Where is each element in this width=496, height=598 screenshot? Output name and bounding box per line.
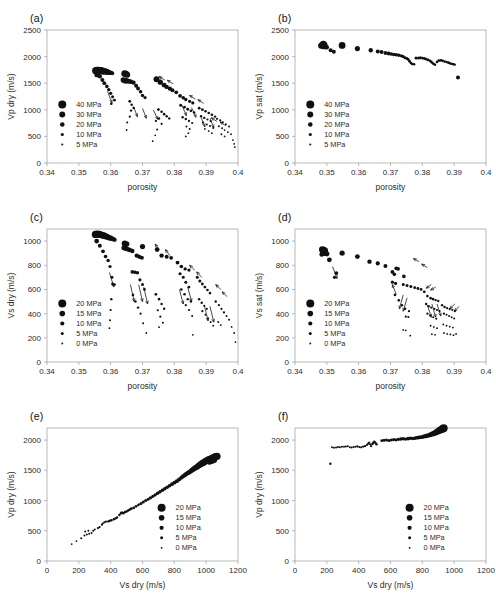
svg-text:0: 0 xyxy=(37,557,42,566)
panel-a: (a) 0.340.350.360.370.380.390.4050010001… xyxy=(0,0,248,199)
svg-text:1500: 1500 xyxy=(23,79,41,88)
svg-text:1000: 1000 xyxy=(23,106,41,115)
svg-text:0: 0 xyxy=(285,358,290,367)
svg-text:0.36: 0.36 xyxy=(351,168,367,177)
svg-text:0.35: 0.35 xyxy=(319,168,335,177)
svg-text:0: 0 xyxy=(293,566,298,575)
svg-text:0.39: 0.39 xyxy=(446,367,462,376)
svg-text:porosity: porosity xyxy=(376,182,407,192)
svg-text:10 MPa: 10 MPa xyxy=(424,523,450,532)
svg-text:5 MPa: 5 MPa xyxy=(76,329,98,338)
svg-text:Vs dry (m/s): Vs dry (m/s) xyxy=(120,580,166,590)
svg-text:0.36: 0.36 xyxy=(103,367,119,376)
svg-text:porosity: porosity xyxy=(128,182,159,192)
svg-text:Vp dry (m/s): Vp dry (m/s) xyxy=(6,471,16,517)
svg-text:2000: 2000 xyxy=(271,53,289,62)
svg-text:0.37: 0.37 xyxy=(135,367,151,376)
svg-text:0.37: 0.37 xyxy=(383,367,399,376)
svg-text:600: 600 xyxy=(384,566,398,575)
svg-text:0.37: 0.37 xyxy=(135,168,151,177)
svg-text:400: 400 xyxy=(104,566,118,575)
svg-text:1200: 1200 xyxy=(477,566,495,575)
svg-text:0.39: 0.39 xyxy=(446,168,462,177)
svg-text:20 MPa: 20 MPa xyxy=(424,503,450,512)
svg-text:5 MPa: 5 MPa xyxy=(324,329,346,338)
svg-text:0.35: 0.35 xyxy=(71,168,87,177)
svg-text:0.4: 0.4 xyxy=(480,168,492,177)
svg-text:0.34: 0.34 xyxy=(287,367,303,376)
svg-text:0.38: 0.38 xyxy=(415,168,431,177)
svg-text:5 MPa: 5 MPa xyxy=(176,533,198,542)
svg-text:0.37: 0.37 xyxy=(383,168,399,177)
svg-text:10 MPa: 10 MPa xyxy=(324,319,350,328)
panel-d-plot: 0.340.350.360.370.380.390.40200400600800… xyxy=(248,199,496,398)
svg-text:40 MPa: 40 MPa xyxy=(76,100,102,109)
panel-f: (f) 020040060080010001200050010001500200… xyxy=(248,398,496,597)
svg-text:0.4: 0.4 xyxy=(480,367,492,376)
svg-text:40 MPa: 40 MPa xyxy=(324,100,350,109)
svg-text:1000: 1000 xyxy=(271,237,289,246)
svg-text:600: 600 xyxy=(136,566,150,575)
svg-text:600: 600 xyxy=(28,285,42,294)
svg-text:5 MPa: 5 MPa xyxy=(324,140,346,149)
svg-text:Vs dry (m/s): Vs dry (m/s) xyxy=(368,580,414,590)
svg-text:2500: 2500 xyxy=(23,26,41,35)
figure-six-panel-scatter: (a) 0.340.350.360.370.380.390.4050010001… xyxy=(0,0,496,598)
svg-text:200: 200 xyxy=(320,566,334,575)
svg-text:2500: 2500 xyxy=(271,26,289,35)
svg-text:200: 200 xyxy=(28,334,42,343)
svg-text:porosity: porosity xyxy=(376,381,407,391)
svg-text:Vs dry (m/s): Vs dry (m/s) xyxy=(6,272,16,318)
svg-text:0.35: 0.35 xyxy=(319,367,335,376)
panel-a-plot: 0.340.350.360.370.380.390.40500100015002… xyxy=(0,0,248,199)
svg-text:500: 500 xyxy=(28,132,42,141)
svg-text:0: 0 xyxy=(37,358,42,367)
svg-text:10 MPa: 10 MPa xyxy=(324,130,350,139)
svg-text:0.36: 0.36 xyxy=(103,168,119,177)
svg-text:0.38: 0.38 xyxy=(167,168,183,177)
svg-text:2000: 2000 xyxy=(271,436,289,445)
svg-text:1000: 1000 xyxy=(271,497,289,506)
svg-text:10 MPa: 10 MPa xyxy=(176,523,202,532)
svg-text:500: 500 xyxy=(276,527,290,536)
svg-text:15 MPa: 15 MPa xyxy=(176,513,202,522)
svg-text:15 MPa: 15 MPa xyxy=(424,513,450,522)
svg-text:0.36: 0.36 xyxy=(351,367,367,376)
svg-text:400: 400 xyxy=(352,566,366,575)
svg-text:porosity: porosity xyxy=(128,381,159,391)
svg-text:400: 400 xyxy=(28,310,42,319)
svg-text:1000: 1000 xyxy=(445,566,463,575)
svg-text:0 MPa: 0 MPa xyxy=(324,339,346,348)
svg-text:0.39: 0.39 xyxy=(198,168,214,177)
svg-text:2000: 2000 xyxy=(23,436,41,445)
svg-text:2000: 2000 xyxy=(23,53,41,62)
svg-text:1200: 1200 xyxy=(229,566,247,575)
svg-text:15 MPa: 15 MPa xyxy=(76,309,102,318)
svg-text:500: 500 xyxy=(276,132,290,141)
svg-text:Vp dry (m/s): Vp dry (m/s) xyxy=(6,73,16,119)
svg-text:20 MPa: 20 MPa xyxy=(324,120,350,129)
svg-text:20 MPa: 20 MPa xyxy=(324,299,350,308)
svg-text:0 MPa: 0 MPa xyxy=(424,543,446,552)
svg-text:800: 800 xyxy=(276,261,290,270)
svg-text:1500: 1500 xyxy=(271,79,289,88)
svg-text:1000: 1000 xyxy=(23,237,41,246)
svg-text:5 MPa: 5 MPa xyxy=(424,533,446,542)
svg-text:0.34: 0.34 xyxy=(287,168,303,177)
svg-text:500: 500 xyxy=(28,527,42,536)
svg-text:0.35: 0.35 xyxy=(71,367,87,376)
svg-text:0: 0 xyxy=(37,159,42,168)
svg-text:0: 0 xyxy=(285,557,290,566)
svg-text:0 MPa: 0 MPa xyxy=(176,543,198,552)
svg-text:1000: 1000 xyxy=(197,566,215,575)
panel-c: (c) 0.340.350.360.370.380.390.4020040060… xyxy=(0,199,248,398)
svg-text:1500: 1500 xyxy=(271,466,289,475)
svg-text:0 MPa: 0 MPa xyxy=(76,339,98,348)
svg-text:0.4: 0.4 xyxy=(232,367,244,376)
svg-text:0: 0 xyxy=(285,159,290,168)
svg-text:1000: 1000 xyxy=(271,106,289,115)
svg-text:Vp sat (m/s): Vp sat (m/s) xyxy=(254,73,264,119)
svg-text:800: 800 xyxy=(168,566,182,575)
svg-text:Vp dry (m/s): Vp dry (m/s) xyxy=(254,471,264,517)
svg-text:0.4: 0.4 xyxy=(232,168,244,177)
